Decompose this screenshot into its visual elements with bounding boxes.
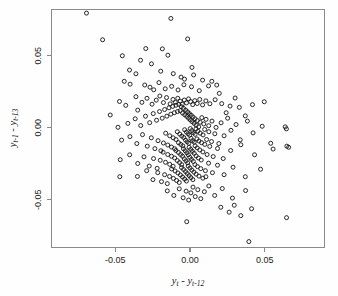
data-point <box>128 135 132 139</box>
data-point <box>243 175 247 179</box>
data-point <box>163 108 167 112</box>
data-point <box>203 169 207 173</box>
y-axis-tick-labels: 0.050.00-0.05 <box>33 47 43 210</box>
data-point <box>140 100 144 104</box>
data-point <box>164 160 168 164</box>
data-point <box>184 101 188 105</box>
x-axis-ticks <box>115 248 264 253</box>
data-point <box>239 214 243 218</box>
data-point <box>239 143 243 147</box>
data-point <box>237 105 241 109</box>
data-point <box>120 138 124 142</box>
data-point <box>213 193 217 197</box>
data-point <box>168 102 172 106</box>
data-point <box>116 125 120 129</box>
data-point <box>203 142 207 146</box>
data-point <box>136 161 140 165</box>
data-point <box>269 141 273 145</box>
plot-canvas: -0.050.000.05 0.050.00-0.05 yt - yt-12 y… <box>0 0 338 296</box>
scatter-plot-figure: -0.050.000.05 0.050.00-0.05 yt - yt-12 y… <box>0 0 338 296</box>
y-axis-title: yt-1 - yt-13 <box>7 108 20 148</box>
data-point <box>250 103 254 107</box>
data-point <box>201 103 205 107</box>
data-point <box>152 88 156 92</box>
data-point <box>251 131 255 135</box>
data-point <box>145 144 149 148</box>
data-point <box>128 68 132 72</box>
data-point <box>154 98 158 102</box>
data-point <box>141 133 145 137</box>
data-point <box>126 121 130 125</box>
data-point <box>151 178 155 182</box>
data-point <box>190 85 194 89</box>
data-point <box>197 89 201 93</box>
data-point <box>148 85 152 89</box>
data-point <box>230 196 234 200</box>
data-point <box>216 146 220 150</box>
data-point <box>221 157 225 161</box>
data-point <box>262 100 266 104</box>
data-point <box>118 158 122 162</box>
data-point <box>165 189 169 193</box>
data-point <box>203 127 207 131</box>
data-point <box>182 83 186 87</box>
svg-text:yt-1 - yt-13: yt-1 - yt-13 <box>7 108 20 148</box>
data-point <box>147 164 151 168</box>
data-point <box>250 207 254 211</box>
data-point <box>199 158 203 162</box>
data-point <box>172 193 176 197</box>
data-point <box>155 166 159 170</box>
data-point <box>205 138 209 142</box>
data-point <box>133 117 137 121</box>
data-points <box>84 11 290 243</box>
data-point <box>211 155 215 159</box>
data-point <box>213 98 217 102</box>
data-point <box>187 198 191 202</box>
data-point <box>163 87 167 91</box>
data-point <box>176 88 180 92</box>
x-axis-title: yt - yt-12 <box>171 275 205 288</box>
data-point <box>149 136 153 140</box>
data-point <box>151 112 155 116</box>
data-point <box>117 99 121 103</box>
x-tick-label: -0.05 <box>105 255 126 265</box>
data-point <box>220 187 224 191</box>
data-point <box>101 38 105 42</box>
data-point <box>142 155 146 159</box>
data-point <box>222 173 226 177</box>
data-point <box>139 124 143 128</box>
data-point <box>202 190 206 194</box>
data-point <box>204 117 208 121</box>
data-point <box>210 171 214 175</box>
data-point <box>159 69 163 73</box>
data-point <box>224 111 228 115</box>
data-point <box>128 153 132 157</box>
data-point <box>204 99 208 103</box>
data-point <box>189 191 193 195</box>
data-point <box>210 79 214 83</box>
data-point <box>208 144 212 148</box>
data-point <box>165 114 169 118</box>
data-point <box>233 96 237 100</box>
data-point <box>199 167 203 171</box>
data-point <box>197 174 201 178</box>
data-point <box>191 103 195 107</box>
data-point <box>158 94 162 98</box>
data-point <box>143 114 147 118</box>
data-point <box>216 163 220 167</box>
data-point <box>220 102 224 106</box>
data-point <box>215 83 219 87</box>
data-point <box>158 110 162 114</box>
data-point <box>84 11 88 15</box>
data-point <box>234 123 238 127</box>
data-point <box>192 73 196 77</box>
data-point <box>193 195 197 199</box>
data-point <box>124 103 128 107</box>
data-point <box>134 95 138 99</box>
data-point <box>160 116 164 120</box>
data-point <box>144 47 148 51</box>
x-axis-tick-labels: -0.050.000.05 <box>105 255 273 265</box>
data-point <box>185 220 189 224</box>
data-point <box>122 79 126 83</box>
data-point <box>195 101 199 105</box>
